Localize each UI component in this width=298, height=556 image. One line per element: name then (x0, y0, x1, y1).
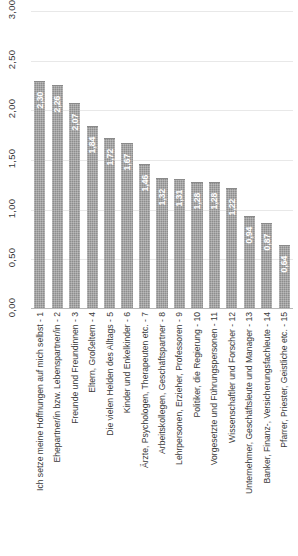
category-label: Ärzte, Psychologen, Therapeuten etc. - 7 (138, 312, 152, 552)
bar-value-label: 2,30 (35, 83, 45, 117)
category-label: Die vielen Helden des Alltags - 5 (103, 312, 117, 552)
bar-value-label: 0,87 (262, 225, 272, 259)
y-axis-tick-label: 1,50 (6, 136, 17, 182)
category-label-slot: Banker, Finanz-, Versicherungsfachleute … (258, 312, 275, 556)
category-label-slot: Lehrpersonen, Erzieher, Professoren - 9 (171, 312, 188, 556)
bar-value-label: 1,72 (105, 140, 115, 174)
bar-value-label: 1,67 (122, 145, 132, 179)
category-label: Lehrpersonen, Erzieher, Professoren - 9 (172, 312, 186, 552)
bar-slot: 1,32 (153, 11, 170, 309)
category-label-slot: Ich setze meine Hoffnungen auf mich selb… (31, 312, 48, 556)
y-axis-tick-label: 0,50 (6, 235, 17, 281)
category-label-slot: Vorgesetzte und Führungspersonen - 11 (206, 312, 223, 556)
bar-value-label: 1,46 (140, 166, 150, 200)
category-label: Wissenschaftler und Forscher - 12 (225, 312, 239, 552)
category-label: Vorgesetzte und Führungspersonen - 11 (207, 312, 221, 552)
bar-slot: 1,67 (118, 11, 135, 309)
bar-value-label: 1,31 (174, 181, 184, 215)
category-label: Politiker, die Regierung - 10 (190, 312, 204, 552)
bar-slot: 2,07 (66, 11, 83, 309)
category-label: Freunde und Freundinnen - 3 (68, 312, 82, 552)
bars-group: 2,302,262,071,841,721,671,461,321,311,28… (31, 11, 293, 309)
bar-slot: 0,87 (258, 11, 275, 309)
bar-chart: 0,000,501,001,502,002,503,00 2,302,262,0… (0, 0, 298, 556)
y-axis-tick-label: 2,50 (6, 36, 17, 82)
bar-slot: 1,46 (136, 11, 153, 309)
category-label-slot: Arbeitskollegen, Geschäftspartner - 8 (153, 312, 170, 556)
category-label-slot: Ärzte, Psychologen, Therapeuten etc. - 7 (136, 312, 153, 556)
y-axis-tick-label: 1,00 (6, 185, 17, 231)
bar-slot: 1,72 (101, 11, 118, 309)
plot-area: 2,302,262,071,841,721,671,461,321,311,28… (31, 11, 293, 309)
category-label: Kinder und Enkelkinder - 6 (120, 312, 134, 552)
category-label: Unternehmer, Geschäftsleute und Manager … (242, 312, 256, 552)
x-axis-category-labels: Ich setze meine Hoffnungen auf mich selb… (31, 312, 293, 556)
bar-slot: 1,28 (206, 11, 223, 309)
y-axis: 0,000,501,001,502,002,503,00 (0, 0, 30, 320)
bar-value-label: 1,22 (227, 190, 237, 224)
bar-slot: 1,28 (188, 11, 205, 309)
category-label: Pfarrer, Priester, Geistliche etc. - 15 (277, 312, 291, 552)
category-label: Ich setze meine Hoffnungen auf mich selb… (33, 312, 47, 552)
category-label-slot: Freunde und Freundinnen - 3 (66, 312, 83, 556)
bar-value-label: 0,64 (279, 247, 289, 281)
bar-value-label: 1,32 (157, 180, 167, 214)
category-label: Ehepartner/in bzw. Lebenspartner/in - 2 (50, 312, 64, 552)
y-axis-tick-label: 2,00 (6, 86, 17, 132)
bar-value-label: 1,84 (87, 128, 97, 162)
category-label-slot: Die vielen Helden des Alltags - 5 (101, 312, 118, 556)
bar-value-label: 1,28 (209, 184, 219, 218)
y-axis-tick-label: 0,00 (6, 285, 17, 331)
bar-slot: 1,84 (83, 11, 100, 309)
bar-slot: 2,26 (48, 11, 65, 309)
bar-slot: 1,31 (171, 11, 188, 309)
category-label-slot: Wissenschaftler und Forscher - 12 (223, 312, 240, 556)
y-axis-tick-label: 3,00 (6, 0, 17, 33)
category-label-slot: Pfarrer, Priester, Geistliche etc. - 15 (276, 312, 293, 556)
bar-value-label: 1,28 (192, 184, 202, 218)
category-label: Banker, Finanz-, Versicherungsfachleute … (260, 312, 274, 552)
bar-slot: 1,22 (223, 11, 240, 309)
category-label-slot: Eltern, Großeltern - 4 (83, 312, 100, 556)
category-label-slot: Kinder und Enkelkinder - 6 (118, 312, 135, 556)
bar-slot: 0,94 (241, 11, 258, 309)
category-label: Eltern, Großeltern - 4 (85, 312, 99, 552)
category-label: Arbeitskollegen, Geschäftspartner - 8 (155, 312, 169, 552)
category-label-slot: Politiker, die Regierung - 10 (188, 312, 205, 556)
category-label-slot: Ehepartner/in bzw. Lebenspartner/in - 2 (48, 312, 65, 556)
x-axis-baseline (31, 308, 293, 309)
bar-value-label: 2,26 (52, 87, 62, 121)
bar-value-label: 0,94 (244, 218, 254, 252)
category-label-slot: Unternehmer, Geschäftsleute und Manager … (241, 312, 258, 556)
bar-slot: 2,30 (31, 11, 48, 309)
bar-slot: 0,64 (276, 11, 293, 309)
bar-value-label: 2,07 (70, 105, 80, 139)
